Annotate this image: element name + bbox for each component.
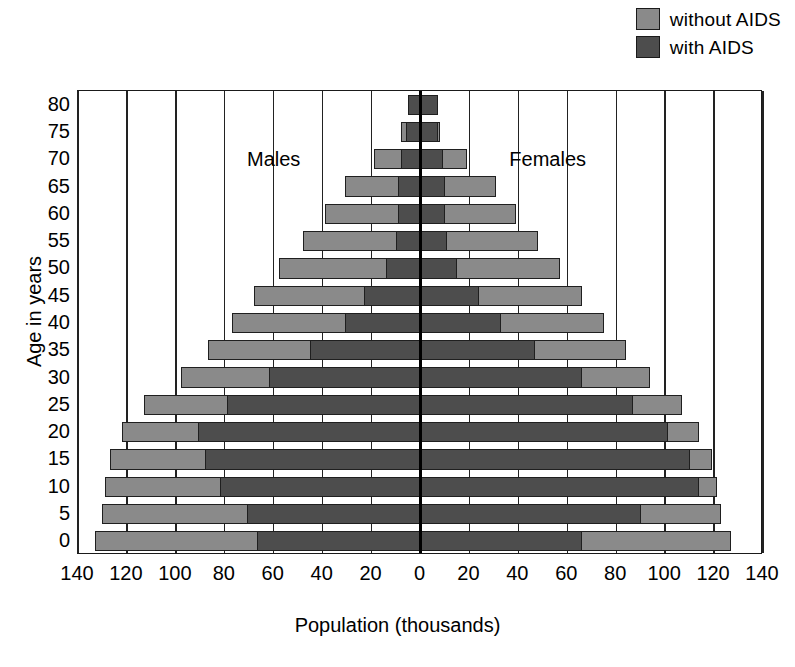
chart-plot-area: Males Females (77, 90, 762, 554)
bar-with-aids-female-80 (421, 95, 438, 115)
dark-gray-swatch (636, 36, 660, 58)
bar-with-aids-male-40 (345, 313, 421, 333)
x-tick-7: 0 (414, 562, 425, 584)
bar-with-aids-female-60 (421, 204, 445, 224)
bar-with-aids-female-15 (421, 449, 690, 469)
bar-with-aids-male-20 (198, 422, 421, 442)
x-tick-12: 100 (647, 562, 680, 584)
bar-with-aids-male-55 (396, 231, 420, 251)
y-axis-tick-labels: 05101520253035404550556065707580 (18, 90, 70, 554)
bar-with-aids-female-30 (421, 367, 582, 387)
bar-with-aids-male-50 (386, 258, 420, 278)
y-tick-5: 5 (18, 503, 70, 523)
bar-with-aids-female-25 (421, 395, 634, 415)
light-gray-swatch (636, 8, 660, 30)
bar-with-aids-female-35 (421, 340, 536, 360)
y-tick-65: 65 (18, 176, 70, 196)
bar-with-aids-male-5 (247, 504, 421, 524)
bar-with-aids-female-65 (421, 176, 445, 196)
x-tick-1: 120 (109, 562, 142, 584)
zero-axis-line (419, 91, 422, 553)
legend-label-with-aids: with AIDS (670, 38, 754, 57)
bar-with-aids-male-30 (269, 367, 421, 387)
x-tick-2: 100 (158, 562, 191, 584)
y-tick-15: 15 (18, 448, 70, 468)
legend-label-without-aids: without AIDS (670, 10, 781, 29)
bar-with-aids-male-45 (364, 286, 420, 306)
y-tick-35: 35 (18, 339, 70, 359)
x-tick-10: 60 (555, 562, 577, 584)
x-tick-3: 80 (213, 562, 235, 584)
x-axis-tick-labels: 14012010080604020020406080100120140 (0, 562, 795, 590)
bar-with-aids-male-15 (205, 449, 420, 469)
bar-with-aids-male-35 (310, 340, 420, 360)
gridline-14 (762, 91, 763, 553)
bar-with-aids-male-25 (227, 395, 420, 415)
x-axis-title: Population (thousands) (0, 614, 795, 637)
y-tick-40: 40 (18, 312, 70, 332)
bar-with-aids-male-65 (398, 176, 420, 196)
x-tick-14: 140 (745, 562, 778, 584)
y-tick-50: 50 (18, 257, 70, 277)
y-tick-25: 25 (18, 394, 70, 414)
bar-with-aids-female-55 (421, 231, 448, 251)
bar-with-aids-male-0 (257, 531, 421, 551)
x-tick-4: 60 (262, 562, 284, 584)
x-tick-13: 120 (696, 562, 729, 584)
legend-item-with-aids: with AIDS (636, 36, 781, 58)
y-tick-0: 0 (18, 530, 70, 550)
y-tick-10: 10 (18, 476, 70, 496)
bar-with-aids-female-75 (421, 122, 438, 142)
bar-with-aids-female-0 (421, 531, 582, 551)
x-tick-6: 20 (359, 562, 381, 584)
bar-with-aids-female-45 (421, 286, 480, 306)
y-tick-60: 60 (18, 203, 70, 223)
legend-item-without-aids: without AIDS (636, 8, 781, 30)
x-tick-11: 80 (604, 562, 626, 584)
y-tick-45: 45 (18, 285, 70, 305)
y-tick-20: 20 (18, 421, 70, 441)
x-tick-8: 20 (457, 562, 479, 584)
bar-with-aids-female-70 (421, 149, 443, 169)
females-side-label: Females (509, 149, 586, 169)
bar-with-aids-female-5 (421, 504, 641, 524)
bar-with-aids-female-50 (421, 258, 458, 278)
bar-with-aids-female-20 (421, 422, 668, 442)
bar-with-aids-female-40 (421, 313, 502, 333)
males-side-label: Males (247, 149, 300, 169)
y-tick-30: 30 (18, 367, 70, 387)
chart-legend: without AIDS with AIDS (636, 8, 781, 58)
y-tick-55: 55 (18, 230, 70, 250)
x-tick-0: 140 (60, 562, 93, 584)
x-tick-9: 40 (506, 562, 528, 584)
bar-with-aids-male-60 (398, 204, 420, 224)
x-tick-5: 40 (311, 562, 333, 584)
bar-with-aids-male-10 (220, 477, 421, 497)
bar-with-aids-male-70 (401, 149, 421, 169)
bar-with-aids-female-10 (421, 477, 700, 497)
y-tick-70: 70 (18, 148, 70, 168)
y-tick-80: 80 (18, 94, 70, 114)
y-tick-75: 75 (18, 121, 70, 141)
